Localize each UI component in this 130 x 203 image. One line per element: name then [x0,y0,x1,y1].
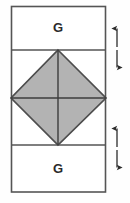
top-band-label: G [53,20,63,35]
technical-diagram: G G [0,0,130,203]
diagram-canvas: G G [0,0,130,203]
bottom-band-label: G [53,161,63,176]
